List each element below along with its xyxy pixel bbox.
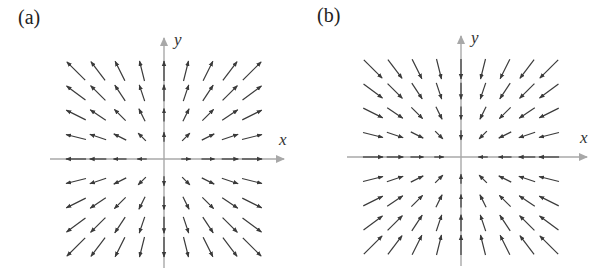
vector-arrow bbox=[540, 84, 559, 98]
vector-arrow bbox=[387, 176, 403, 181]
vector-arrow bbox=[437, 235, 442, 255]
vector-arrow bbox=[222, 110, 238, 120]
vector-arrow bbox=[222, 134, 238, 139]
vector-arrow bbox=[243, 86, 262, 100]
vector-arrow bbox=[203, 217, 213, 233]
vector-arrow bbox=[479, 175, 487, 183]
vector-arrow bbox=[387, 108, 403, 118]
vector-arrow bbox=[363, 133, 383, 138]
vector-arrow bbox=[519, 196, 535, 206]
vector-arrow bbox=[67, 86, 86, 100]
vector-arrow bbox=[412, 215, 422, 231]
vector-arrow bbox=[480, 83, 485, 99]
vector-arrow bbox=[363, 108, 383, 118]
vector-arrow bbox=[67, 62, 85, 80]
vector-arrow bbox=[519, 176, 535, 181]
vector-arrow bbox=[412, 83, 422, 99]
vector-arrow bbox=[520, 236, 534, 255]
vector-arrow bbox=[243, 218, 262, 232]
vector-arrow bbox=[481, 59, 486, 79]
vector-arrow bbox=[223, 62, 237, 81]
vector-arrow bbox=[520, 84, 535, 99]
vector-arrow bbox=[388, 236, 402, 255]
vector-arrow bbox=[520, 216, 535, 231]
vector-arrow bbox=[479, 131, 487, 139]
vector-arrow bbox=[499, 132, 511, 138]
vector-arrow bbox=[67, 218, 86, 232]
vector-arrow bbox=[499, 195, 510, 206]
vector-arrow bbox=[480, 107, 486, 119]
vector-arrow bbox=[435, 175, 443, 183]
panel-b-plot bbox=[347, 36, 587, 266]
vector-arrow bbox=[183, 85, 188, 101]
vector-arrow bbox=[91, 62, 105, 81]
vector-arrow bbox=[436, 215, 441, 231]
vector-arrow bbox=[114, 109, 125, 120]
vector-arrow bbox=[412, 59, 422, 79]
vector-arrow bbox=[242, 179, 262, 184]
vector-arrow bbox=[411, 195, 422, 206]
vector-arrow bbox=[184, 61, 189, 81]
vector-arrow bbox=[139, 217, 144, 233]
vector-arrow bbox=[540, 236, 558, 254]
vector-arrow bbox=[539, 133, 559, 138]
vector-arrow bbox=[183, 197, 189, 209]
vector-arrow bbox=[140, 61, 145, 81]
vector-arrow bbox=[500, 83, 510, 99]
vector-arrow bbox=[223, 86, 238, 101]
vector-arrow bbox=[114, 134, 126, 140]
vector-arrow bbox=[435, 131, 443, 139]
vector-arrow bbox=[202, 178, 214, 184]
vector-arrow bbox=[66, 110, 86, 120]
vector-arrow bbox=[411, 176, 423, 182]
vector-arrow bbox=[115, 217, 125, 233]
vector-arrow bbox=[67, 238, 85, 256]
vector-arrow bbox=[363, 196, 383, 206]
vector-arrow bbox=[138, 133, 146, 141]
vector-arrow bbox=[519, 132, 535, 137]
vector-arrow bbox=[203, 61, 213, 81]
panel-a-plot bbox=[50, 38, 284, 268]
vector-arrow bbox=[520, 60, 534, 79]
vector-arrow bbox=[242, 135, 262, 140]
vector-arrow bbox=[364, 216, 383, 230]
vector-arrow bbox=[140, 237, 145, 257]
vector-arrow bbox=[539, 196, 559, 206]
vector-arrow bbox=[182, 177, 190, 185]
vector-arrow bbox=[183, 217, 188, 233]
vector-arrow bbox=[242, 110, 262, 120]
vector-arrow bbox=[436, 107, 442, 119]
vector-arrow bbox=[184, 237, 189, 257]
vector-arrow bbox=[412, 235, 422, 255]
vector-arrow bbox=[363, 177, 383, 182]
vector-arrow bbox=[114, 178, 126, 184]
vector-arrow bbox=[499, 176, 511, 182]
vector-arrow bbox=[500, 59, 510, 79]
vector-arrow bbox=[91, 218, 106, 233]
vector-arrow bbox=[203, 237, 213, 257]
vector-arrow bbox=[202, 197, 213, 208]
vector-arrow bbox=[115, 61, 125, 81]
vector-arrow bbox=[243, 238, 261, 256]
vector-arrow bbox=[66, 198, 86, 208]
vector-arrow bbox=[387, 196, 403, 206]
vector-arrow bbox=[411, 107, 422, 118]
vector-arrow bbox=[540, 216, 559, 230]
vector-arrow bbox=[388, 84, 403, 99]
vector-arrow bbox=[90, 178, 106, 183]
vector-arrow bbox=[387, 132, 403, 137]
vector-arrow bbox=[436, 83, 441, 99]
vector-arrow bbox=[500, 235, 510, 255]
vector-arrow bbox=[203, 85, 213, 101]
vector-arrow bbox=[66, 135, 86, 140]
vector-arrow bbox=[223, 218, 238, 233]
vector-arrow bbox=[202, 134, 214, 140]
vector-arrow bbox=[243, 62, 261, 80]
vector-arrow bbox=[202, 109, 213, 120]
vector-arrow bbox=[499, 107, 510, 118]
vector-arrow bbox=[500, 215, 510, 231]
vector-arrow bbox=[364, 84, 383, 98]
vector-arrow bbox=[539, 108, 559, 118]
vector-arrow bbox=[223, 238, 237, 257]
vector-arrow bbox=[139, 85, 144, 101]
